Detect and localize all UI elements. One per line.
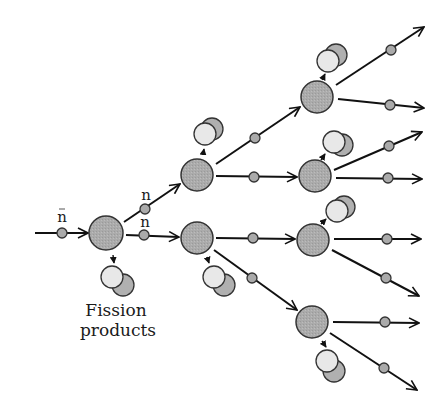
neutron-gen2u-lower — [249, 172, 259, 182]
path-gen1-to-gen2-upper — [124, 184, 180, 222]
emission-arrow-gen2-upper — [203, 149, 204, 155]
neutron-incoming — [57, 228, 67, 238]
product-light — [316, 350, 338, 372]
path-gen3c-out-2 — [332, 250, 419, 296]
fission-product-pair-gen3-d — [316, 341, 345, 382]
fission-product-pair-gen3-c — [321, 196, 355, 224]
path-gen3a-out-2 — [338, 99, 424, 108]
emission-arrow-gen1 — [113, 255, 114, 263]
fission-product-pair-gen3-a — [317, 44, 347, 80]
emission-arrow-gen3-b — [321, 154, 325, 160]
product-light — [101, 266, 123, 288]
nucleus-gen3-d — [296, 306, 328, 338]
nucleus-gen1 — [89, 216, 123, 250]
path-gen3d-out-1 — [333, 322, 419, 323]
emission-arrow-gen3-c — [321, 219, 326, 224]
emission-arrow-gen3-d — [322, 341, 326, 347]
neutron-gen3b-2 — [383, 173, 393, 183]
emission-arrow-gen3-a — [322, 74, 325, 80]
path-gen1-to-gen2-lower — [126, 235, 179, 237]
fission-product-pair-gen3-b — [321, 131, 353, 160]
nucleus-gen3-b — [299, 160, 331, 192]
nucleus-gen2-lower — [181, 222, 213, 254]
path-gen3d-out-2 — [330, 333, 417, 390]
label-neutron-incoming: n — [57, 208, 67, 226]
neutron-gen3a-1 — [386, 45, 396, 55]
nucleus-gen3-a — [301, 81, 333, 113]
neutron-gen3d-2 — [379, 363, 389, 373]
product-light — [326, 200, 348, 222]
path-gen3b-out-2 — [336, 178, 422, 179]
fission-chain-diagram: n n n Fission products — [0, 0, 442, 413]
neutron-gen3c-2 — [381, 273, 391, 283]
neutron-gen2u-upper — [250, 133, 260, 143]
label-fission-products-line1: Fission — [85, 300, 146, 320]
neutron-gen2l-lower — [247, 273, 257, 283]
neutron-gen3a-2 — [385, 100, 395, 110]
neutron-gen3d-1 — [380, 317, 390, 327]
neutron-gen1-lower — [139, 230, 149, 240]
fission-product-pair-gen1 — [101, 255, 134, 296]
neutron-gen2l-upper — [248, 233, 258, 243]
nucleus-gen3-c — [297, 224, 329, 256]
fission-product-pair-gen2-upper — [194, 118, 223, 155]
label-neutron-lower: n — [140, 213, 150, 231]
neutron-gen3b-1 — [384, 141, 394, 151]
path-gen3a-out-1 — [336, 27, 424, 85]
neutron-gen3c-1 — [382, 234, 392, 244]
product-light — [323, 131, 345, 153]
emission-arrow-gen2-lower — [207, 257, 209, 263]
product-light — [203, 266, 225, 288]
product-light — [317, 50, 339, 72]
label-fission-products-line2: products — [80, 320, 156, 340]
nucleus-gen2-upper — [181, 159, 213, 191]
label-neutron-upper: n — [141, 186, 151, 204]
product-light — [194, 123, 216, 145]
